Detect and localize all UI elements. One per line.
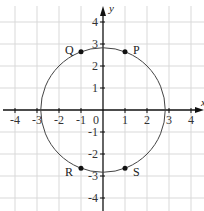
y-tick-label: -2 xyxy=(88,147,98,161)
x-tick-label: -4 xyxy=(10,113,20,127)
y-axis-label: y xyxy=(108,2,114,14)
point-p xyxy=(123,49,128,54)
x-tick-label: 4 xyxy=(188,113,194,127)
y-tick-label: -1 xyxy=(88,125,98,139)
y-tick-label: 4 xyxy=(92,15,98,29)
y-tick-label: 1 xyxy=(92,81,98,95)
y-axis-arrow-icon xyxy=(100,6,106,16)
y-tick-label: 2 xyxy=(92,59,98,73)
point-label-q: Q xyxy=(65,43,74,57)
point-label-s: S xyxy=(133,165,140,179)
x-tick-label: 3 xyxy=(166,113,172,127)
y-tick-label: -4 xyxy=(88,191,98,205)
x-tick-label: 2 xyxy=(144,113,150,127)
point-s xyxy=(123,166,128,171)
point-r xyxy=(79,166,84,171)
circle-diagram: yx0-4-3-2-112344321-1-2-3-4PQRS xyxy=(0,0,204,211)
x-tick-label: 1 xyxy=(122,113,128,127)
x-axis-label: x xyxy=(200,96,204,108)
point-label-p: P xyxy=(133,43,140,57)
point-q xyxy=(79,49,84,54)
point-label-r: R xyxy=(65,165,73,179)
x-tick-label: -2 xyxy=(54,113,64,127)
x-tick-label: -1 xyxy=(76,113,86,127)
